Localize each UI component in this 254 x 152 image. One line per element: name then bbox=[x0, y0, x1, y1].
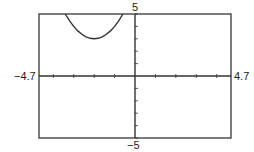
graph-window bbox=[0, 0, 254, 152]
x-min-label: −4.7 bbox=[14, 71, 36, 82]
y-min-label: −5 bbox=[127, 140, 140, 151]
x-max-label: 4.7 bbox=[234, 71, 249, 82]
y-max-label: 5 bbox=[132, 2, 138, 13]
parabola-curve bbox=[65, 14, 123, 39]
axes bbox=[39, 14, 231, 138]
